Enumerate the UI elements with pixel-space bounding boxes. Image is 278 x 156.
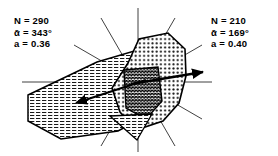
stat-sample-size-right: N = 210 [211, 15, 249, 27]
stat-sample-size-left: N = 290 [14, 15, 52, 27]
stat-mean-direction-left: ᾱ = 343° [14, 27, 52, 39]
stat-vector-strength-right: a = 0.40 [211, 38, 249, 50]
stat-vector-strength-left: a = 0.36 [14, 38, 52, 50]
stat-mean-direction-right: ᾱ = 169° [211, 27, 249, 39]
stats-block-right: N = 210 ᾱ = 169° a = 0.40 [211, 15, 249, 50]
rose-diagram-figure: N = 290 ᾱ = 343° a = 0.36 N = 210 ᾱ = … [0, 0, 278, 156]
stats-block-left: N = 290 ᾱ = 343° a = 0.36 [14, 15, 52, 50]
